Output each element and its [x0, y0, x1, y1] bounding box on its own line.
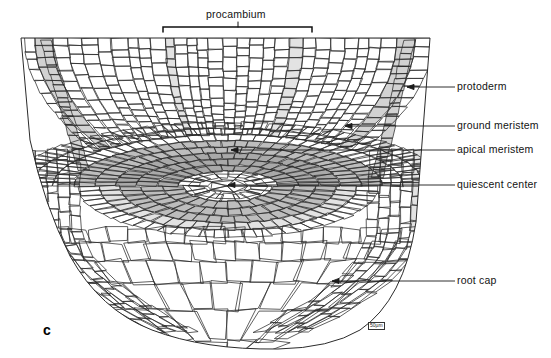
scale-marker: 50µm — [368, 322, 385, 330]
label-protoderm: protoderm — [457, 81, 507, 92]
root-apex-figure: protoderm ground meristem apical meriste… — [0, 0, 551, 358]
label-apical-meristem: apical meristem — [457, 144, 534, 155]
figure-letter: c — [43, 322, 51, 338]
procambium-bracket — [163, 22, 312, 32]
label-ground-meristem: ground meristem — [457, 120, 539, 131]
label-root-cap: root cap — [457, 275, 497, 286]
label-quiescent-center: quiescent center — [457, 179, 537, 190]
leader-protoderm — [407, 84, 455, 89]
label-procambium: procambium — [206, 8, 266, 20]
